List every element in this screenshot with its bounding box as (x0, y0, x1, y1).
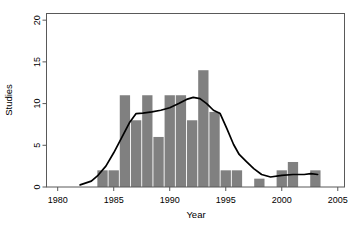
chart-figure: 198019851990199520002005 05101520 Year S… (0, 0, 362, 226)
x-axis-tick-label: 2000 (272, 195, 292, 205)
bar (254, 179, 264, 187)
bar (109, 170, 119, 187)
x-axis-tick-label: 2005 (328, 195, 348, 205)
x-axis-title: Year (186, 209, 205, 220)
bar (187, 120, 197, 187)
x-axis-tick-label: 1985 (104, 195, 124, 205)
bar (221, 170, 231, 187)
bar (209, 112, 219, 187)
studies-by-year-chart: 198019851990199520002005 05101520 Year S… (0, 0, 362, 226)
y-axis-tick-label: 5 (32, 143, 42, 148)
bar (277, 170, 287, 187)
bar (142, 95, 152, 187)
bar (198, 70, 208, 187)
x-axis-tick-label: 1990 (160, 195, 180, 205)
y-axis-tick-label: 20 (32, 15, 42, 25)
bar (120, 95, 130, 187)
bar (310, 170, 320, 187)
x-axis-tick-label: 1995 (216, 195, 236, 205)
bar (232, 170, 242, 187)
x-axis-tick-label: 1980 (48, 195, 68, 205)
bar (97, 170, 107, 187)
y-axis-title: Studies (3, 84, 14, 116)
bar (176, 95, 186, 187)
bar (131, 120, 141, 187)
y-axis-tick-label: 15 (32, 57, 42, 67)
bar (153, 137, 163, 187)
y-axis-tick-label: 0 (32, 184, 42, 189)
y-axis-tick-label: 10 (32, 99, 42, 109)
